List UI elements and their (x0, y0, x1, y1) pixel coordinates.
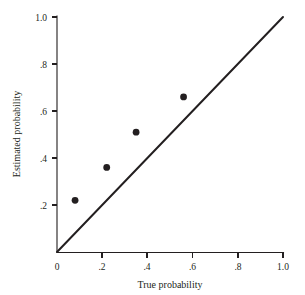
y-axis-tick-labels: 1.0 .8 .6 .4 .2 (35, 13, 47, 211)
x-tick-label: .8 (234, 262, 241, 272)
y-axis-ticks (52, 17, 58, 205)
y-tick-label: .2 (40, 201, 47, 211)
data-point (103, 164, 110, 171)
y-tick-label: 1.0 (35, 13, 47, 23)
x-tick-label: .4 (143, 262, 150, 272)
x-axis-tick-labels: 0 .2 .4 .6 .8 1.0 (55, 262, 290, 272)
y-tick-label: .8 (40, 60, 47, 70)
data-point (133, 129, 140, 136)
x-axis-ticks (102, 253, 283, 259)
y-tick-label: .6 (40, 107, 47, 117)
x-axis-title: True probability (138, 279, 203, 290)
identity-reference-line (57, 17, 283, 252)
scatter-plot-figure: 1.0 .8 .6 .4 .2 0 .2 .4 .6 .8 1.0 Tr (0, 0, 305, 295)
data-point (180, 94, 187, 101)
plot-canvas: 1.0 .8 .6 .4 .2 0 .2 .4 .6 .8 1.0 Tr (0, 0, 305, 295)
data-points-group (72, 94, 187, 204)
x-tick-label: 1.0 (277, 262, 289, 272)
data-point (72, 197, 79, 204)
x-tick-label: 0 (55, 262, 60, 272)
y-axis-title: Estimated probability (11, 91, 22, 177)
x-tick-label: .6 (189, 262, 196, 272)
x-tick-label: .2 (98, 262, 105, 272)
y-tick-label: .4 (40, 154, 47, 164)
